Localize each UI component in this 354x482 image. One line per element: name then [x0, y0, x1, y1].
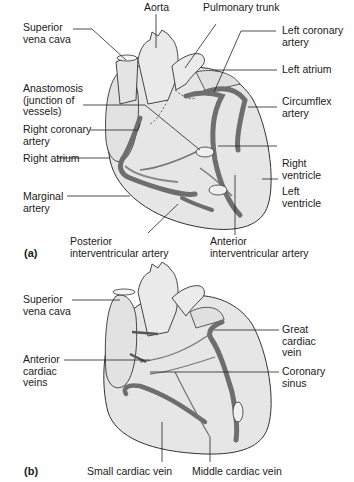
label-superior-vena-cava: Superior vena cava: [23, 22, 71, 45]
superior-vena-cava: [116, 56, 138, 104]
label-aorta: Aorta: [144, 2, 169, 14]
label-marginal-artery: Marginal artery: [23, 191, 63, 214]
label-right-atrium: Right atrium: [23, 153, 80, 165]
label-posterior-interventricular-artery: Posterior interventricular artery: [70, 236, 169, 259]
label-left-coronary-artery: Left coronary artery: [282, 25, 343, 48]
label-middle-cardiac-vein: Middle cardiac vein: [192, 466, 282, 478]
panel-label-a: (a): [24, 247, 37, 259]
label-anterior-interventricular-artery: Anterior interventricular artery: [210, 236, 309, 259]
label-coronary-sinus: Coronary sinus: [282, 366, 325, 389]
label-superior-vena-cava: Superior vena cava: [23, 294, 71, 317]
label-left-atrium: Left atrium: [282, 64, 332, 76]
label-right-coronary-artery: Right coronary artery: [23, 124, 91, 147]
label-anastomosis: Anastomosis (junction of vessels): [23, 83, 83, 118]
label-great-cardiac-vein: Great cardiac vein: [282, 324, 316, 359]
label-circumflex-artery: Circumflex artery: [282, 96, 332, 119]
figure-a-coronary-arteries: Aorta Pulmonary trunk Superior vena cava…: [0, 0, 354, 262]
label-anterior-cardiac-veins: Anterior cardiac veins: [23, 354, 60, 389]
label-right-ventricle: Right ventricle: [282, 158, 321, 181]
label-pulmonary-trunk: Pulmonary trunk: [203, 2, 279, 14]
label-left-ventricle: Left ventricle: [282, 186, 321, 209]
panel-label-b: (b): [24, 465, 38, 477]
label-small-cardiac-vein: Small cardiac vein: [87, 466, 172, 478]
figure-b-cardiac-veins: Superior vena cava Anterior cardiac vein…: [0, 262, 354, 482]
